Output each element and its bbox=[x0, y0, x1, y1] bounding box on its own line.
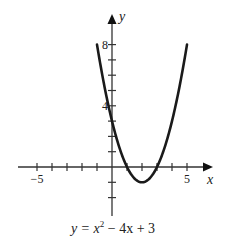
x-tick-label: 5 bbox=[184, 172, 190, 186]
y-tick-label: 8 bbox=[102, 38, 108, 52]
x-axis-label: x bbox=[206, 172, 214, 187]
y-axis-label: y bbox=[117, 9, 126, 24]
equation-caption: y = x2 − 4x + 3 bbox=[0, 219, 226, 237]
y-axis-arrow-icon bbox=[108, 14, 117, 24]
axis-labels: −5548xy bbox=[31, 9, 214, 187]
x-tick-label: −5 bbox=[31, 172, 44, 186]
caption-rest: − 4x + 3 bbox=[104, 221, 155, 236]
parabola-chart: −5548xy bbox=[0, 0, 226, 249]
x-axis-arrow-icon bbox=[203, 163, 213, 172]
parabola-curve bbox=[97, 45, 187, 183]
caption-prefix: y = bbox=[71, 221, 94, 236]
